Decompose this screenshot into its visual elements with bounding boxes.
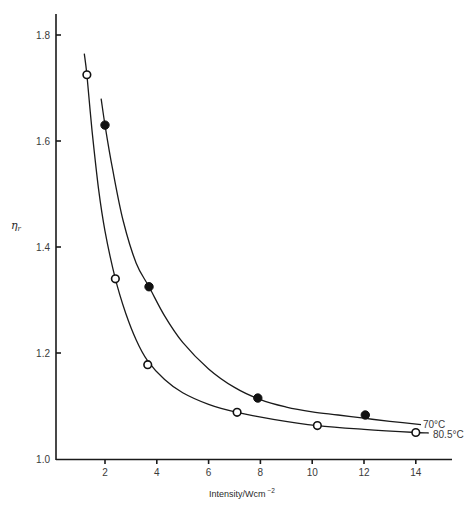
y-axis-title: ηr [11, 219, 22, 233]
series-curve-80.5°C [84, 54, 428, 433]
y-ticks: 1.01.21.41.61.8 [36, 30, 61, 465]
chart-figure: 1.01.21.41.61.8 2468101214 70°C 80.5°C η… [0, 0, 471, 507]
y-tick-label: 1.4 [36, 242, 50, 253]
x-ticks: 2468101214 [102, 459, 422, 478]
open-circle-marker [112, 275, 120, 283]
x-axis-title: Intensity/Wcm−2 [209, 487, 275, 499]
series-curve-70°C [101, 99, 421, 425]
filled-circle-marker [361, 411, 369, 419]
x-tick-label: 2 [102, 467, 108, 478]
series-markers [83, 71, 420, 436]
axes [56, 14, 452, 460]
open-circle-marker [144, 361, 152, 369]
x-tick-label: 14 [410, 467, 422, 478]
x-tick-label: 12 [358, 467, 370, 478]
y-tick-label: 1.8 [36, 30, 50, 41]
x-tick-label: 6 [206, 467, 212, 478]
series-curves [84, 54, 428, 433]
open-circle-marker [412, 429, 420, 437]
open-circle-marker [314, 422, 322, 430]
filled-circle-marker [145, 283, 153, 291]
x-tick-label: 8 [258, 467, 264, 478]
open-circle-marker [233, 409, 241, 417]
y-tick-label: 1.6 [36, 136, 50, 147]
y-tick-label: 1.2 [36, 348, 50, 359]
x-tick-label: 4 [154, 467, 160, 478]
series-label-80-5c: 80.5°C [433, 429, 464, 440]
y-tick-label: 1.0 [36, 454, 50, 465]
open-circle-marker [83, 71, 91, 79]
filled-circle-marker [101, 121, 109, 129]
filled-circle-marker [254, 394, 262, 402]
x-tick-label: 10 [307, 467, 319, 478]
